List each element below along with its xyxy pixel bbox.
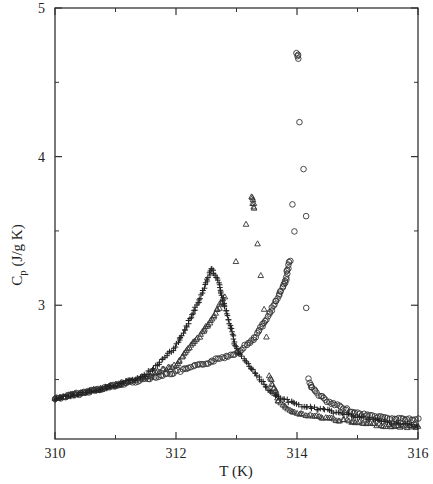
cross-marker (231, 336, 237, 342)
circle-marker (292, 229, 298, 235)
x-tick-labels: 310312314316 (45, 446, 429, 461)
x-tick-label: 314 (287, 446, 308, 461)
triangle-marker (243, 221, 249, 226)
series-circles (52, 50, 421, 423)
x-tick-label: 316 (408, 446, 429, 461)
x-tick-label: 312 (166, 446, 187, 461)
cross-marker (321, 406, 327, 412)
cross-marker (253, 371, 259, 377)
triangle-marker (258, 273, 264, 278)
cross-marker (285, 399, 291, 405)
y-axis-title: Cp (J/g K) (9, 224, 28, 285)
triangle-marker (233, 259, 239, 264)
triangle-marker (261, 306, 267, 311)
circle-marker (297, 119, 303, 125)
triangle-marker (255, 241, 261, 246)
circle-marker (303, 213, 309, 219)
circle-marker (301, 166, 307, 172)
y-tick-label: 5 (38, 1, 45, 16)
x-tick-label: 310 (45, 446, 66, 461)
x-axis-title: T (K) (219, 463, 252, 480)
cross-marker (196, 297, 202, 303)
y-tick-label: 4 (38, 150, 45, 165)
plot-frame (55, 8, 418, 439)
y-tick-label: 3 (38, 298, 45, 313)
axis-ticks (55, 8, 418, 439)
chart: 310312314316 345 T (K) Cp (J/g K) (0, 0, 433, 484)
cross-marker (226, 317, 232, 323)
data-points (52, 50, 421, 429)
y-tick-labels: 345 (38, 1, 45, 313)
cross-marker (217, 285, 223, 291)
triangle-marker (264, 334, 270, 339)
cross-marker (264, 384, 270, 390)
circle-marker (303, 305, 309, 311)
circle-marker (290, 202, 296, 208)
cross-marker (229, 326, 235, 332)
series-crosses (52, 266, 420, 430)
series-triangles (52, 194, 421, 430)
